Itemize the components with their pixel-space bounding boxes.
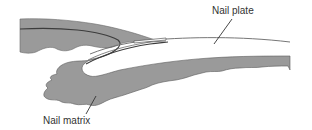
nail-cross-section-illustration xyxy=(0,0,312,130)
nail-matrix-and-bed xyxy=(44,56,290,106)
nail-plate-label: Nail plate xyxy=(212,6,254,16)
nail-anatomy-diagram: Nail plate Nail matrix xyxy=(0,0,312,130)
nail-matrix-label: Nail matrix xyxy=(43,116,90,126)
proximal-nail-fold xyxy=(20,19,155,53)
nail-plate-leader-line xyxy=(214,19,232,44)
